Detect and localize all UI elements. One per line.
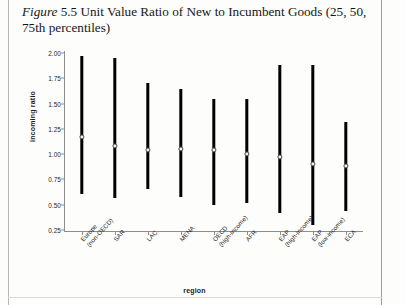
y-axis-tick-mark [61,154,65,155]
chart-figure: incoming ratio 0.250.500.751.001.251.501… [8,42,381,297]
range-bar [311,65,314,225]
y-axis-tick-mark [61,230,65,231]
median-marker [244,152,249,157]
range-bar [278,65,281,213]
median-marker [277,155,282,160]
y-axis-tick-mark [61,204,65,205]
page-gutter-right [381,0,382,305]
range-bar [113,58,116,198]
median-marker [211,148,216,153]
median-marker [310,162,315,167]
figure-label: Figure [22,4,57,19]
y-axis-tick-mark [61,78,65,79]
median-marker [145,148,150,153]
figure-caption: Figure 5.5 Unit Value Ratio of New to In… [22,4,374,36]
y-axis-tick-mark [61,53,65,54]
range-bar [146,83,149,188]
median-marker [178,146,183,151]
plot-area: 0.250.500.751.001.251.501.752.00 [65,53,362,230]
y-axis-tick-mark [61,103,65,104]
y-axis-label: incoming ratio [29,91,36,142]
x-axis-label: region [8,287,381,294]
page-gutter-bottom [8,297,382,298]
median-marker [112,143,117,148]
y-axis-tick-mark [61,128,65,129]
range-bar [80,56,83,194]
y-axis-tick-mark [61,179,65,180]
median-marker [79,134,84,139]
median-marker [343,164,348,169]
figure-number-value: 5.5 [61,4,77,19]
page-canvas: Figure 5.5 Unit Value Ratio of New to In… [0,0,406,305]
range-bar [179,89,182,196]
